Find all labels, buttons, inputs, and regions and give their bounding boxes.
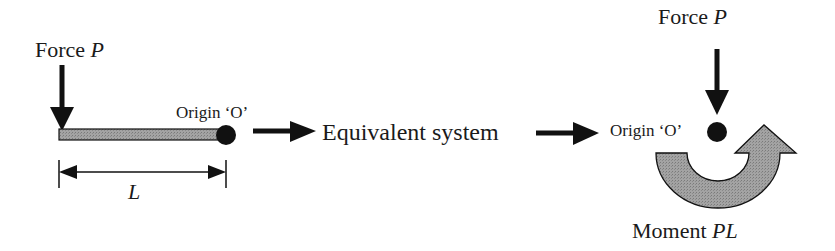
left-force-arrow-icon (50, 65, 74, 131)
right-force-arrow-icon (705, 49, 729, 115)
origin-label-right: Origin ‘O’ (610, 121, 682, 140)
transform-arrow-icon (253, 121, 316, 142)
transform-arrow-icon (536, 122, 599, 145)
origin-point-right (707, 122, 727, 142)
left-force-label: Force P (35, 37, 104, 62)
equivalent-system-label: Equivalent system (322, 119, 499, 145)
origin-point-left (216, 125, 236, 145)
right-force-label: Force P (658, 4, 727, 29)
origin-label-left: Origin ‘O’ (176, 103, 248, 122)
moment-label: Moment PL (632, 218, 738, 243)
left-system: Force P Origin ‘O’ L (35, 37, 248, 204)
length-dimension (59, 160, 226, 188)
diagram-canvas: Force P Origin ‘O’ L Equivalent system F… (0, 0, 835, 251)
right-system: Force P Origin ‘O’ Moment PL (610, 4, 796, 243)
cantilever-beam (59, 129, 225, 140)
length-label: L (127, 179, 140, 204)
